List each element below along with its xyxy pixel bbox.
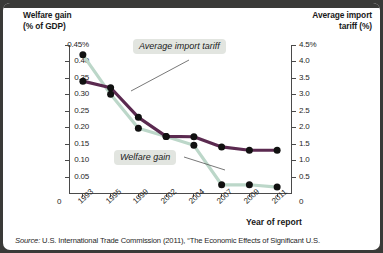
x-axis-title: Year of report — [246, 217, 302, 227]
source-note: Source: U.S. International Trade Commiss… — [15, 236, 375, 245]
callout-average-import-tariff: Average import tariff — [133, 39, 226, 54]
callout-welfare-gain: Welfare gain — [114, 150, 176, 165]
x-axis-origin-right-label: 0 — [299, 197, 303, 206]
source-prefix: Source: — [15, 236, 40, 245]
x-axis-origin-left-label: 0 — [57, 197, 61, 206]
source-text: U.S. International Trade Commission (201… — [40, 236, 320, 245]
welfare-leader-line — [184, 157, 225, 170]
tariff-leader-line — [131, 60, 189, 91]
chart-card: Welfare gain (% of GDP) Average import t… — [3, 3, 380, 250]
